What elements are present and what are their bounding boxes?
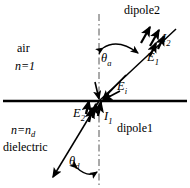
label-field-e1-subscript: 1 — [155, 57, 159, 67]
label-theta-d: θd — [69, 155, 79, 170]
label-field-ei-symbol: E — [117, 79, 125, 93]
label-dielectric-index: n=nd — [11, 124, 35, 139]
field-e2-arrows — [86, 101, 92, 122]
label-current-i2-subscript: 2 — [166, 38, 170, 48]
label-field-ei: Ei — [117, 80, 127, 95]
theta-d-arc — [77, 168, 97, 174]
current-i1-arrows — [93, 102, 101, 118]
label-current-i2: I2 — [162, 32, 170, 47]
label-air-medium: air — [17, 42, 30, 54]
label-theta-d-subscript: d — [75, 161, 79, 171]
label-current-i1-subscript: 1 — [108, 116, 112, 126]
label-field-e2: E2 — [73, 107, 85, 122]
diagram-canvas — [0, 0, 190, 188]
label-theta-a: θa — [101, 52, 111, 67]
physics-diagram: air n=1 n=nd dielectric dipole2 dipole1 … — [0, 0, 190, 188]
label-dielectric-medium: dielectric — [3, 141, 48, 153]
label-field-e1-symbol: E — [147, 50, 155, 64]
label-dielectric-index-text: n=n — [11, 123, 31, 137]
label-field-e2-subscript: 2 — [81, 113, 85, 123]
label-air-index: n=1 — [15, 60, 35, 72]
label-current-i1: I1 — [104, 110, 112, 125]
label-theta-a-subscript: a — [107, 58, 111, 68]
label-field-ei-subscript: i — [125, 86, 127, 96]
label-dipole1: dipole1 — [117, 122, 153, 134]
label-air-index-text: n=1 — [15, 59, 35, 73]
label-field-e2-symbol: E — [73, 106, 81, 120]
label-field-e1: E1 — [147, 51, 159, 66]
label-dipole2: dipole2 — [124, 4, 160, 16]
label-dielectric-index-subscript: d — [31, 129, 35, 139]
